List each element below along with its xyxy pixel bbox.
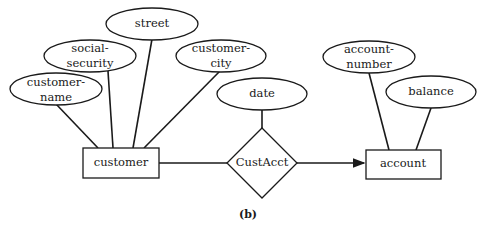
attribute-label: date	[249, 86, 275, 100]
attribute-label: city	[210, 56, 232, 70]
attribute-label: customer-	[27, 75, 86, 89]
attribute-label: social-	[71, 41, 108, 55]
edge-social-security	[108, 71, 113, 148]
attribute-label: name	[40, 90, 72, 104]
entity-label: account	[380, 156, 426, 170]
attribute-label: balance	[408, 84, 454, 98]
attribute-date: date	[217, 78, 307, 110]
edge-customer-city	[144, 71, 220, 148]
entity-customer: customer	[83, 148, 159, 178]
entity-account: account	[366, 150, 441, 179]
attribute-label: account-	[344, 42, 394, 56]
edge-balance	[416, 108, 431, 150]
attribute-label: customer-	[192, 41, 251, 55]
attribute-label: number	[346, 57, 392, 71]
attribute-account-number: account- number	[323, 41, 415, 73]
entity-label: customer	[94, 155, 149, 169]
attribute-customer-name: customer- name	[10, 73, 102, 105]
relationship-label: CustAcct	[236, 155, 289, 169]
edge-account-number	[369, 73, 389, 150]
attribute-balance: balance	[386, 76, 476, 108]
edge-customer-name	[56, 104, 98, 148]
er-diagram: customer- name social- security street c…	[0, 0, 487, 228]
attribute-customer-city: customer- city	[176, 40, 266, 72]
relationship-custacct: CustAcct	[227, 128, 297, 198]
attribute-social-security: social- security	[44, 40, 136, 72]
attribute-label: security	[67, 56, 114, 70]
figure-caption: (b)	[239, 208, 257, 221]
attribute-label: street	[135, 16, 170, 30]
attribute-street: street	[106, 8, 198, 40]
